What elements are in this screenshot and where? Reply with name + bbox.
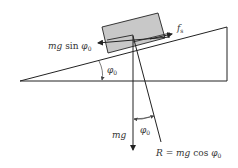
incline-angle-label: φ0 (107, 65, 117, 76)
normal-component-line (133, 36, 161, 142)
normal-angle-label: φ0 (140, 125, 150, 136)
weight-label: mg (112, 130, 127, 140)
incline-angle-arc (99, 61, 103, 80)
friction-label: fs (176, 23, 183, 34)
parallel-force-label: mg sin φ0 (48, 41, 92, 52)
normal-label: R = mg cos φ0 (155, 148, 221, 159)
incline-diagram: fs mg sin φ0 φ0 mg φ0 R = mg cos φ0 (0, 0, 238, 168)
